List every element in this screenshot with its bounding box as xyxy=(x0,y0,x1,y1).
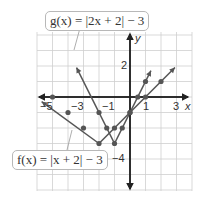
x-tick-neg3: −3 xyxy=(71,100,84,112)
x-tick-1: 1 xyxy=(143,100,149,112)
f-function-label: f(x) = |x + 2| − 3 xyxy=(12,150,108,170)
y-tick-2: 2 xyxy=(121,59,127,71)
x-axis-label: x xyxy=(185,100,191,112)
y-axis-label: y xyxy=(135,32,141,44)
g-leader-line xyxy=(74,28,80,50)
x-tick-3: 3 xyxy=(173,100,179,112)
x-tick-neg1: −1 xyxy=(102,100,115,112)
x-tick-neg5: −5 xyxy=(40,100,53,112)
g-function-label: g(x) = |2x + 2| − 3 xyxy=(45,11,149,31)
y-tick-neg4: −4 xyxy=(112,152,125,164)
